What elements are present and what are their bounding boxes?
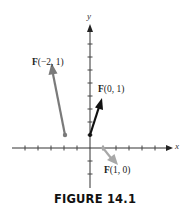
label-f-args: (1, 0) <box>110 165 131 175</box>
y-axis-label: y <box>87 11 91 21</box>
vector-f-neg2-1 <box>49 63 68 137</box>
label-f-args: (0, 1) <box>104 84 125 94</box>
label-f-neg2-1: F(−2, 1) <box>32 57 64 67</box>
label-f-0-1: F(0, 1) <box>98 84 124 94</box>
x-axis-label: x <box>175 141 179 151</box>
y-axis <box>87 24 93 188</box>
vector-f-1-0 <box>101 146 118 165</box>
figure-caption: FIGURE 14.1 <box>0 192 190 206</box>
x-axis <box>12 145 173 151</box>
label-f-1-0: F(1, 0) <box>104 165 130 175</box>
label-f-args: (−2, 1) <box>38 57 64 67</box>
vector-field-diagram <box>0 0 190 215</box>
